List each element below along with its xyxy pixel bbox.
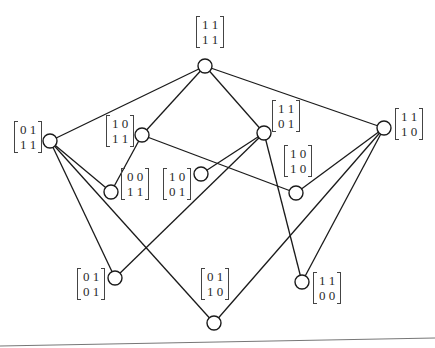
matrix-row-1: 0 1 [83, 269, 99, 284]
matrix-label-n01_01: 0 1 0 1 [77, 268, 105, 300]
matrix-label-n00_11: 0 0 1 1 [121, 168, 149, 200]
bottom-rule-divider [0, 338, 435, 346]
matrix-row-2: 1 1 [112, 131, 128, 146]
matrix-row-2: 1 1 [20, 137, 36, 152]
edge-n11_01-n01_01 [115, 133, 264, 278]
matrix-row-1: 0 1 [20, 122, 36, 137]
matrix-row-2: 1 1 [127, 184, 143, 199]
matrix-row-1: 1 1 [202, 17, 218, 32]
matrix-row-2: 0 1 [83, 284, 99, 299]
matrix-row-2: 1 0 [290, 161, 306, 176]
node-circle-n11_11 [198, 59, 212, 73]
node-circle-n10_10 [289, 186, 303, 200]
matrix-row-2: 0 1 [278, 116, 294, 131]
matrix-row-2: 1 0 [207, 284, 223, 299]
right-bracket [296, 100, 300, 132]
matrix-label-n11_01: 1 1 0 1 [272, 100, 300, 132]
matrix-row-1: 1 1 [278, 101, 294, 116]
right-bracket [225, 268, 229, 300]
node-circle-n10_11 [135, 128, 149, 142]
edge-n11_10-n11_00 [302, 128, 384, 282]
matrix-row-2: 0 1 [169, 184, 185, 199]
matrix-row-2: 1 1 [202, 32, 218, 47]
edge-n01_11-n01_01 [50, 141, 115, 278]
right-bracket [337, 272, 341, 304]
right-bracket [308, 145, 312, 177]
matrix-label-n10_01: 1 0 0 1 [163, 168, 191, 200]
matrix-row-2: 0 0 [319, 288, 335, 303]
edge-n11_01-n10_01 [201, 133, 264, 174]
matrix-row-1: 1 0 [290, 146, 306, 161]
node-circle-n11_01 [257, 126, 271, 140]
node-circle-n10_01 [194, 167, 208, 181]
right-bracket [38, 121, 42, 153]
matrix-row-1: 0 0 [127, 169, 143, 184]
node-circle-n01_10 [207, 316, 221, 330]
node-circle-n11_00 [295, 275, 309, 289]
right-bracket [220, 16, 224, 48]
node-circle-n01_11 [43, 134, 57, 148]
edge-n01_11-n00_11 [50, 141, 111, 192]
node-circle-n11_10 [377, 121, 391, 135]
matrix-label-n11_11: 1 1 1 1 [196, 16, 224, 48]
matrix-row-1: 1 0 [169, 169, 185, 184]
matrix-label-n10_10: 1 0 1 0 [284, 145, 312, 177]
right-bracket [130, 115, 134, 147]
matrix-row-1: 1 1 [319, 273, 335, 288]
matrix-label-n11_00: 1 1 0 0 [313, 272, 341, 304]
right-bracket [419, 108, 423, 140]
matrix-row-1: 1 0 [112, 116, 128, 131]
matrix-label-n10_11: 1 0 1 1 [106, 115, 134, 147]
matrix-row-1: 0 1 [207, 269, 223, 284]
right-bracket [145, 168, 149, 200]
matrix-label-n11_10: 1 1 1 0 [395, 108, 423, 140]
matrix-label-n01_11: 0 1 1 1 [14, 121, 42, 153]
right-bracket [187, 168, 191, 200]
matrix-row-2: 1 0 [401, 124, 417, 139]
node-circle-n00_11 [104, 185, 118, 199]
edge-n11_11-n10_11 [142, 66, 205, 135]
node-circle-n01_01 [108, 271, 122, 285]
matrix-row-1: 1 1 [401, 109, 417, 124]
matrix-label-n01_10: 0 1 1 0 [201, 268, 229, 300]
right-bracket [101, 268, 105, 300]
